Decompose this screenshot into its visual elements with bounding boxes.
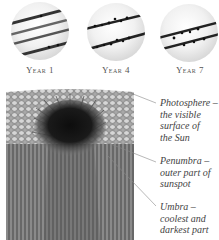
penumbra-desc-1: outer part of xyxy=(160,167,219,179)
sun-year-4 xyxy=(87,3,145,61)
year-7-label: Year 7 xyxy=(160,65,219,75)
umbra-term: Umbra – xyxy=(160,201,219,213)
umbra-desc-1: coolest and xyxy=(160,213,219,225)
photosphere-desc-1: the visible xyxy=(160,109,219,121)
umbra-desc-2: darkest part xyxy=(160,224,219,236)
penumbra-desc-2: sunspot xyxy=(160,178,219,190)
penumbra-label: Penumbra – outer part of sunspot xyxy=(160,155,219,190)
photosphere-desc-2: surface of xyxy=(160,120,219,132)
umbra-label: Umbra – coolest and darkest part xyxy=(160,201,219,236)
sunspot-bands-year-4 xyxy=(87,3,145,61)
sun-year-7 xyxy=(160,4,218,62)
year-1-label: Year 1 xyxy=(10,65,70,75)
photosphere-desc-3: the Sun xyxy=(160,132,219,144)
penumbra-term: Penumbra – xyxy=(160,155,219,167)
sunspot-bands-year-1 xyxy=(11,2,69,60)
sunspot-cross-section xyxy=(4,88,136,240)
sunspot-bands-year-7 xyxy=(160,4,218,62)
photosphere-term: Photosphere – xyxy=(160,97,219,109)
sun-year-1 xyxy=(11,2,69,60)
photosphere-label: Photosphere – the visible surface of the… xyxy=(160,97,219,143)
year-4-label: Year 4 xyxy=(86,65,146,75)
